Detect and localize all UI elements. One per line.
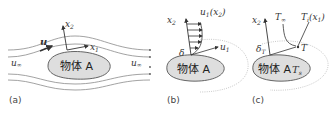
u-inf-right: u∞ [131,58,142,68]
x2-label-a: x2 [65,19,74,30]
caption-c: (c) [252,95,264,105]
streamline-end-dots [149,49,151,75]
delta-t-label: δT [256,44,266,55]
t-inf-label: T∞ [275,12,286,23]
body-label-a: 物体 A [60,59,93,73]
t-profile-label: Ti(x1) [301,12,325,23]
t-label: T [301,43,308,53]
panel-c: 物体 A Ts x2 T∞ Ti(x1) T δT (c) [252,12,328,105]
diagram-canvas: 物体 A x2 x1 u u∞ u∞ (a) 物体 A x2 u1(x2) δ [0,0,333,117]
u1-label-b: u1 [220,42,230,53]
velocity-profile [187,22,202,55]
body-label-c: 物体 A [258,62,291,76]
x2-axis-arrow-c [265,19,270,55]
delta-label-b: δ [179,48,184,58]
x1-label-a: x1 [90,42,99,53]
panel-a: 物体 A x2 x1 u u∞ u∞ (a) [8,19,151,105]
surface-line-c [270,47,296,55]
u-label: u [40,36,47,47]
caption-a: (a) [9,95,22,105]
t-point [297,46,299,48]
x2-axis-arrow [63,26,67,50]
u-inf-left: u∞ [11,58,22,68]
caption-b: (b) [167,95,180,105]
body-label-b: 物体 A [177,62,210,76]
panel-b: 物体 A x2 u1(x2) δ u1 (b) [167,7,248,105]
x1-axis-arrow [67,46,88,50]
x2-label-c: x2 [252,15,261,26]
profile-label-b: u1(x2) [200,7,226,18]
temperature-profile [283,24,296,46]
x2-label-b: x2 [167,15,176,26]
